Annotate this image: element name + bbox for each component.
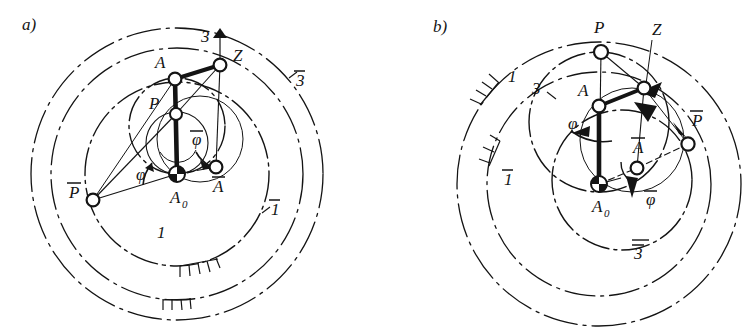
- label-phi-a: φ: [136, 165, 145, 184]
- label-point-A-a: A: [154, 53, 166, 72]
- label-phibar-b: φ: [644, 190, 657, 209]
- joint-Z[interactable]: [214, 59, 227, 72]
- joint-A0-b[interactable]: [591, 176, 607, 192]
- svg-text:1: 1: [504, 170, 513, 189]
- svg-text:1: 1: [271, 200, 280, 219]
- label-point-Pbar-a: P: [67, 183, 81, 202]
- joint-A0[interactable]: [169, 166, 185, 182]
- joint-Abar-b[interactable]: [631, 162, 644, 175]
- label-point-Abar-b: A: [631, 138, 645, 157]
- joint-Abar[interactable]: [210, 161, 223, 174]
- label-circle-1bar-a: 1: [269, 200, 280, 219]
- label-point-Z-a: Z: [233, 46, 243, 65]
- joint-Pbar-b[interactable]: [681, 137, 694, 150]
- label-phi-b: φ: [568, 114, 577, 133]
- link-A0-A: [175, 79, 177, 174]
- svg-text:3: 3: [633, 244, 643, 263]
- svg-text:A: A: [169, 188, 181, 207]
- label-circle-1-a: 1: [157, 223, 166, 242]
- svg-text:P: P: [691, 111, 702, 130]
- svg-text:φ: φ: [646, 190, 655, 209]
- label-point-Abar-a: A: [212, 177, 225, 196]
- kinematic-diagram-svg: a) A Z P A 0 A P 3 1 3 1 φ φ: [0, 0, 754, 333]
- label-point-P-a: P: [148, 94, 159, 113]
- label-point-P-b: P: [593, 18, 604, 37]
- panel-tag-a: a): [22, 15, 37, 34]
- joint-Z-b[interactable]: [638, 82, 651, 95]
- joint-Pbar[interactable]: [87, 194, 100, 207]
- label-circle-3bar-a: 3: [294, 71, 305, 90]
- svg-text:0: 0: [182, 198, 188, 210]
- svg-text:P: P: [68, 183, 79, 202]
- svg-text:φ: φ: [192, 130, 201, 149]
- label-point-Pbar-b: P: [690, 111, 703, 130]
- label-circle-1bar-b: 1: [502, 170, 513, 189]
- label-phibar-a: φ: [190, 130, 203, 149]
- label-circle-1-b: 1: [508, 67, 517, 86]
- label-circle-3bar-b: 3: [632, 244, 644, 263]
- svg-text:0: 0: [604, 207, 610, 219]
- panel-tag-b: b): [433, 17, 448, 36]
- svg-text:A: A: [212, 177, 224, 196]
- label-point-A-b: A: [577, 81, 589, 100]
- label-circle-3-a: 3: [200, 27, 210, 46]
- svg-text:3: 3: [295, 71, 305, 90]
- label-circle-3-b: 3: [531, 79, 541, 98]
- svg-text:A: A: [632, 138, 644, 157]
- joint-P[interactable]: [170, 108, 182, 120]
- svg-text:A: A: [591, 197, 603, 216]
- label-point-Z-b: Z: [652, 20, 662, 39]
- figure-canvas: a) A Z P A 0 A P 3 1 3 1 φ φ: [0, 0, 754, 333]
- joint-P-b[interactable]: [594, 45, 608, 59]
- joint-A[interactable]: [169, 73, 182, 86]
- joint-A-b[interactable]: [593, 100, 606, 113]
